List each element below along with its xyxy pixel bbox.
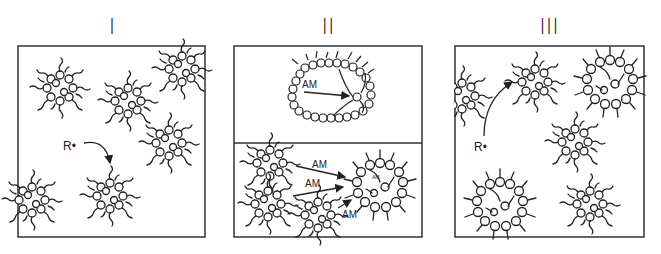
radical-label: R• — [63, 139, 76, 153]
am-label-2: AM — [305, 178, 320, 189]
am-label-1: AM — [312, 159, 327, 170]
am-label-3: AM — [342, 209, 357, 220]
am-arrow-top — [304, 92, 349, 96]
radical-arrow — [84, 142, 110, 163]
micelle-diagram: R• AM AM AM AM — [0, 0, 661, 254]
panel-III: R• — [430, 46, 646, 239]
am-label-inner: AM — [372, 174, 380, 180]
am-label-top: AM — [302, 79, 317, 90]
panel-II: AM AM AM AM AM — [234, 46, 422, 245]
panel-I: R• — [2, 39, 212, 237]
radical-label: R• — [474, 140, 487, 154]
radical-arrow — [484, 82, 512, 136]
am-arrow-3 — [338, 200, 351, 208]
